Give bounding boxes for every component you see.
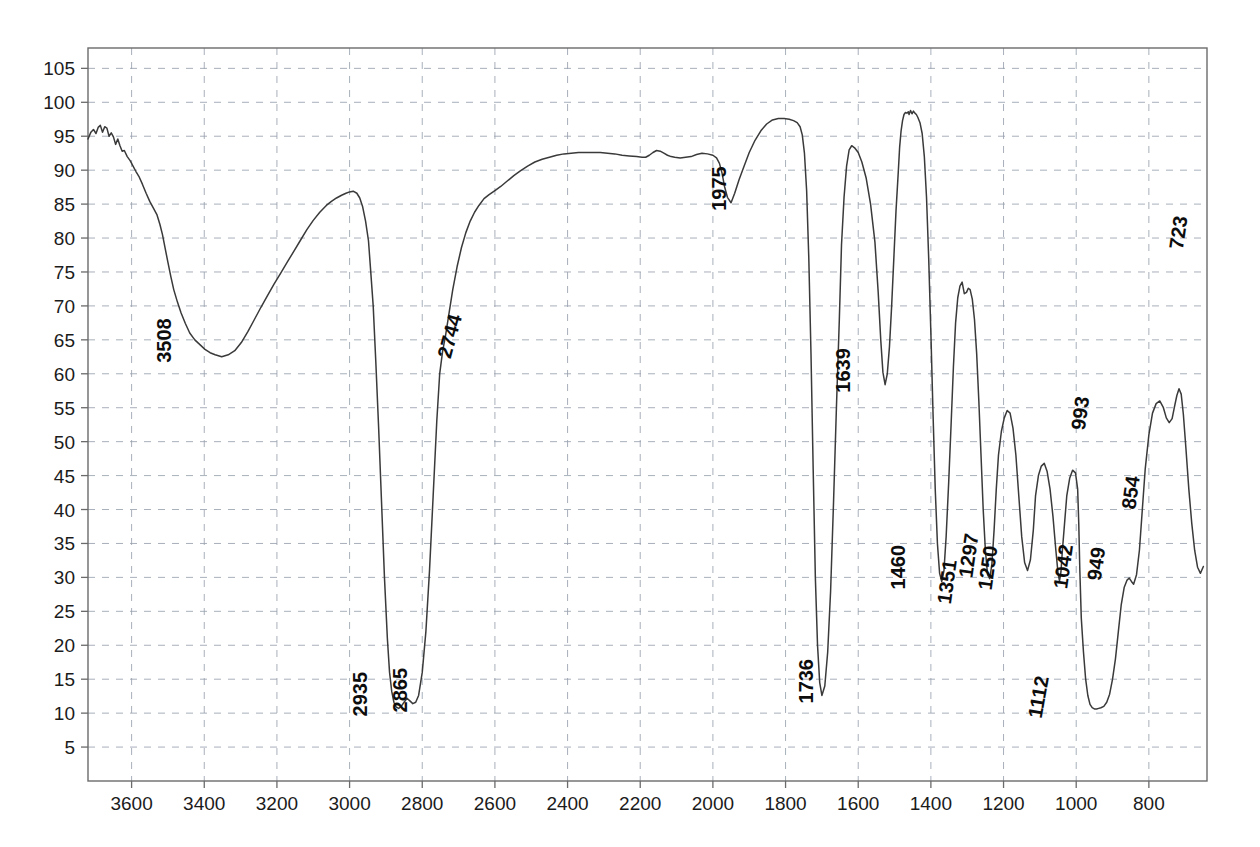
y-tick-label: 85	[54, 194, 75, 215]
peak-label-3508: 3508	[153, 318, 175, 363]
y-tick-label: 15	[54, 669, 75, 690]
peak-label-1639: 1639	[832, 348, 854, 393]
y-tick-label: 50	[54, 432, 75, 453]
peak-label-949: 949	[1083, 546, 1109, 582]
y-tick-label: 80	[54, 228, 75, 249]
y-tick-label: 65	[54, 330, 75, 351]
peak-label-723: 723	[1165, 215, 1191, 251]
x-tick-label: 2800	[401, 793, 443, 814]
x-tick-label: 2200	[619, 793, 661, 814]
peak-label-993: 993	[1067, 395, 1093, 431]
y-tick-label: 35	[54, 533, 75, 554]
y-tick-label: 105	[43, 58, 75, 79]
peak-label-2865: 2865	[389, 668, 411, 713]
y-tick-label: 20	[54, 635, 75, 656]
peak-label-1460: 1460	[887, 545, 909, 590]
x-tick-label: 3200	[256, 793, 298, 814]
ir-spectrum-figure: 3600340032003000280026002400220020001800…	[0, 0, 1260, 847]
x-tick-label: 3400	[183, 793, 225, 814]
x-tick-label: 1800	[764, 793, 806, 814]
y-tick-label: 10	[54, 703, 75, 724]
y-tick-label: 95	[54, 126, 75, 147]
x-tick-label: 3600	[110, 793, 152, 814]
x-tick-label: 1200	[982, 793, 1024, 814]
y-tick-label: 25	[54, 601, 75, 622]
spectrum-plot: 3600340032003000280026002400220020001800…	[0, 0, 1260, 847]
x-tick-label: 1600	[837, 793, 879, 814]
y-tick-label: 75	[54, 262, 75, 283]
x-tick-label: 800	[1133, 793, 1165, 814]
y-tick-label: 70	[54, 296, 75, 317]
y-tick-label: 60	[54, 364, 75, 385]
x-tick-label: 3000	[328, 793, 370, 814]
peak-label-1736: 1736	[795, 659, 817, 704]
x-tick-label: 2000	[692, 793, 734, 814]
x-tick-label: 1000	[1055, 793, 1097, 814]
y-tick-label: 5	[64, 737, 75, 758]
x-tick-label: 2400	[546, 793, 588, 814]
peak-label-1975: 1975	[708, 166, 730, 211]
y-tick-label: 100	[43, 92, 75, 113]
peak-label-854: 854	[1117, 474, 1144, 511]
y-tick-label: 45	[54, 466, 75, 487]
y-tick-label: 90	[54, 160, 75, 181]
peak-label-2935: 2935	[349, 672, 371, 717]
y-tick-label: 40	[54, 500, 75, 521]
x-tick-label: 1400	[910, 793, 952, 814]
y-tick-label: 55	[54, 398, 75, 419]
y-tick-label: 30	[54, 567, 75, 588]
x-tick-label: 2600	[474, 793, 516, 814]
